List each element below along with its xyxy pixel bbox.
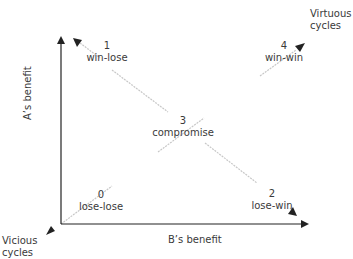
x-axis-label: B’s benefit <box>168 234 222 245</box>
arrowhead-vicious-icon <box>46 226 55 235</box>
outcome-3-compromise: 3 compromise <box>150 115 216 139</box>
vicious-cycles-label: Vicious cycles <box>2 235 37 259</box>
outcome-1-win-lose: 1 win-lose <box>82 40 132 64</box>
y-axis-label: A’s benefit <box>22 66 33 120</box>
outcome-4-win-win: 4 win-win <box>259 40 309 64</box>
outcome-2-lose-win: 2 lose-win <box>246 188 298 212</box>
arrowhead-win-lose-icon <box>73 38 82 47</box>
virtuous-cycles-label: Virtuous cycles <box>310 8 351 32</box>
outcome-0-lose-lose: 0 lose-lose <box>73 189 129 213</box>
